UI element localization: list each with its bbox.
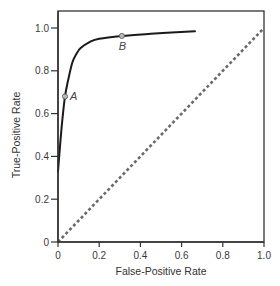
roc-chart: 00.20.40.60.81.000.20.40.60.81.0 AB Fals… xyxy=(0,0,280,286)
x-tick-label: 0.2 xyxy=(92,250,106,261)
points-layer: AB xyxy=(62,33,126,102)
point-a-marker xyxy=(62,94,67,99)
y-tick-label: 0.6 xyxy=(35,108,49,119)
point-a-label: A xyxy=(69,90,77,102)
ticks-layer: 00.20.40.60.81.000.20.40.60.81.0 xyxy=(35,11,271,261)
y-tick-label: 0.8 xyxy=(35,65,49,76)
x-axis-title: False-Positive Rate xyxy=(115,265,206,277)
point-b-label: B xyxy=(119,40,126,52)
x-tick-label: 0.6 xyxy=(175,250,189,261)
x-tick-label: 0.4 xyxy=(133,250,147,261)
y-tick-label: 0.4 xyxy=(35,151,49,162)
y-tick-label: 0.2 xyxy=(35,194,49,205)
point-b-marker xyxy=(119,33,124,38)
plot-frame xyxy=(58,11,264,242)
y-tick-label: 0 xyxy=(43,237,49,248)
x-tick-label: 0 xyxy=(55,250,61,261)
series-layer xyxy=(58,28,264,242)
chance-diagonal-line xyxy=(58,28,264,242)
x-tick-label: 0.8 xyxy=(216,250,230,261)
x-tick-label: 1.0 xyxy=(257,250,271,261)
roc-curve xyxy=(58,31,195,171)
y-axis-title: True-Positive Rate xyxy=(10,92,22,179)
y-tick-label: 1.0 xyxy=(35,23,49,34)
